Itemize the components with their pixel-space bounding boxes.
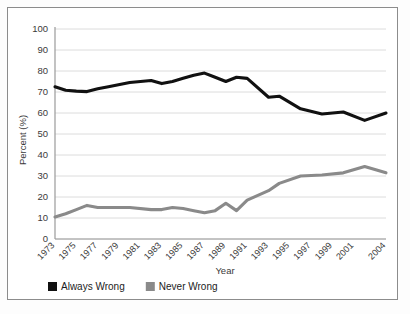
x-axis-tick-label: 1997 [291, 240, 312, 261]
x-axis-tick-label: 1973 [35, 240, 56, 261]
x-axis-tick-label: 1975 [57, 240, 78, 261]
x-axis-tick-labels: 1973197519771979198119831985198719891991… [35, 240, 387, 261]
x-axis-title: Year [215, 265, 234, 276]
y-axis-tick-label: 50 [37, 128, 48, 139]
figure-container: 1009080706050403020100 19731975197719791… [0, 0, 410, 314]
legend-label: Never Wrong [159, 281, 218, 292]
legend-swatch [146, 282, 155, 291]
legend-swatch [48, 282, 57, 291]
data-series [55, 73, 386, 217]
chart-legend: Always WrongNever Wrong [48, 281, 218, 292]
y-axis-tick-label: 60 [37, 107, 48, 118]
x-axis-tick-label: 2004 [366, 240, 387, 261]
x-axis-tick-label: 1999 [313, 240, 334, 261]
x-axis-tick-label: 1983 [142, 240, 163, 261]
y-axis-tick-label: 90 [37, 44, 48, 55]
y-axis-tick-label: 80 [37, 65, 48, 76]
y-axis-tick-label: 100 [32, 23, 48, 34]
y-axis-tick-label: 30 [37, 170, 48, 181]
x-axis-tick-label: 1995 [270, 240, 291, 261]
x-axis-tick-label: 1989 [206, 240, 227, 261]
legend-label: Always Wrong [61, 281, 125, 292]
x-axis-tick-label: 1981 [121, 240, 142, 261]
x-axis-tick-label: 1991 [227, 240, 248, 261]
y-axis-tick-label: 20 [37, 191, 48, 202]
y-axis-title: Percent (%) [17, 115, 28, 165]
x-axis-tick-label: 1987 [185, 240, 206, 261]
x-axis-tick-label: 1985 [163, 240, 184, 261]
line-chart: 1009080706050403020100 19731975197719791… [0, 0, 410, 314]
y-axis-tick-label: 70 [37, 86, 48, 97]
x-axis-tick-label: 1993 [249, 240, 270, 261]
x-axis-tick-label: 2001 [334, 240, 355, 261]
x-axis-tick-label: 1979 [99, 240, 120, 261]
x-axis-tick-label: 1977 [78, 240, 99, 261]
series-line-never-wrong [55, 167, 386, 217]
y-axis-tick-labels: 1009080706050403020100 [32, 23, 48, 244]
y-axis-tick-label: 10 [37, 212, 48, 223]
y-axis-tick-label: 40 [37, 149, 48, 160]
